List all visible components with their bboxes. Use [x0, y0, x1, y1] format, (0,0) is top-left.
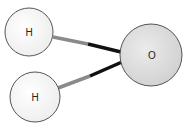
atom-label: H — [31, 92, 38, 103]
water-molecule-diagram: H H O — [0, 0, 189, 131]
atom-hydrogen-2: H — [10, 72, 60, 122]
bond-h2-o — [58, 62, 122, 88]
bond-h1-o — [53, 37, 121, 52]
atom-hydrogen-1: H — [5, 8, 53, 56]
atom-oxygen: O — [120, 24, 182, 86]
atom-label: O — [148, 50, 156, 61]
atom-label: H — [25, 27, 32, 38]
